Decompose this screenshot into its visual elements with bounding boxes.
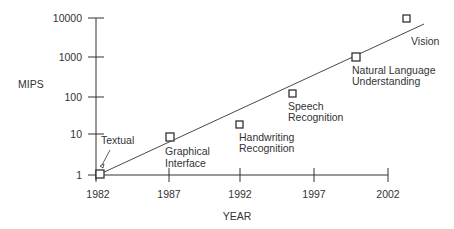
label-graphical-line1: Graphical (165, 145, 210, 157)
label-vision: Vision (411, 35, 440, 47)
textual-pointer (102, 150, 110, 165)
label-nlu-line2: Understanding (352, 75, 420, 87)
y-tick-1: 1 (76, 169, 82, 181)
marker-vision (403, 15, 410, 22)
x-tick-1997: 1997 (302, 188, 326, 200)
marker-textual (96, 170, 104, 178)
y-tick-100: 100 (64, 91, 82, 103)
y-axis-label: MIPS (18, 78, 44, 90)
x-tick-1982: 1982 (86, 188, 110, 200)
label-textual: Textual (101, 134, 134, 146)
textual-pointer-head (100, 164, 104, 168)
mips-chart: 10000 1000 100 10 1 MIPS 1982 1987 1992 … (0, 0, 454, 229)
x-tick-2002: 2002 (376, 188, 400, 200)
x-tick-labels: 1982 1987 1992 1997 2002 (86, 188, 400, 200)
marker-speech-recognition (289, 90, 296, 97)
label-speech-line2: Recognition (288, 111, 344, 123)
y-tick-10: 10 (70, 128, 82, 140)
marker-graphical-interface (166, 133, 174, 141)
y-tick-labels: 10000 1000 100 10 1 (53, 12, 82, 181)
x-tick-1987: 1987 (157, 188, 181, 200)
y-tick-10000: 10000 (53, 12, 82, 24)
label-graphical-line2: Interface (165, 157, 206, 169)
marker-natural-language-understanding (352, 53, 360, 61)
marker-handwriting-recognition (236, 121, 243, 128)
y-tick-1000: 1000 (59, 51, 83, 63)
x-axis-label: YEAR (223, 210, 252, 222)
label-handwriting-line2: Recognition (239, 142, 295, 154)
x-tick-1992: 1992 (228, 188, 252, 200)
